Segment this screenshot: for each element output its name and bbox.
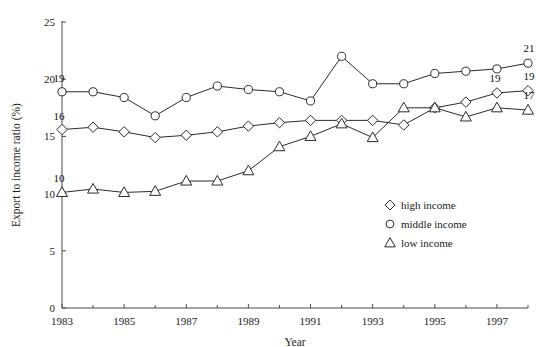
y-tick-label: 15: [44, 130, 56, 142]
x-tick-label: 1985: [113, 315, 136, 327]
axes-layer: 0510152025198319851987198919911993199519…: [44, 16, 528, 327]
circle-marker: [182, 93, 190, 101]
legend-item-middle-income[interactable]: middle income: [386, 218, 467, 230]
end-value-label: 17: [524, 89, 536, 101]
circle-marker: [151, 112, 159, 120]
circle-marker: [338, 52, 346, 60]
series-line: [62, 56, 528, 115]
x-tick-label: 1995: [424, 315, 447, 327]
diamond-marker: [119, 127, 129, 137]
y-tick-label: 0: [50, 302, 56, 314]
start-value-label: 19: [54, 72, 66, 84]
legend-item-high-income[interactable]: high income: [385, 199, 456, 211]
circle-marker: [275, 88, 283, 96]
triangle-marker: [523, 104, 534, 114]
series-layer: [57, 52, 534, 196]
series-low-income: [57, 102, 534, 196]
series-middle-income: [58, 52, 532, 120]
circle-marker: [213, 82, 221, 90]
series-line: [62, 91, 528, 138]
diamond-marker: [150, 132, 160, 142]
diamond-marker: [274, 117, 284, 127]
mid-value-label: 19: [489, 72, 501, 84]
diamond-marker: [399, 120, 409, 130]
legend-label: middle income: [401, 218, 467, 230]
y-tick-label: 25: [44, 16, 56, 28]
diamond-marker: [243, 121, 253, 131]
series-line: [62, 108, 528, 193]
diamond-marker: [181, 130, 191, 140]
diamond-marker: [492, 88, 502, 98]
triangle-marker: [491, 102, 502, 112]
x-tick-label: 1989: [237, 315, 260, 327]
diamond-marker: [461, 97, 471, 107]
circle-marker: [400, 80, 408, 88]
triangle-marker: [88, 183, 99, 193]
start-value-label: 10: [54, 172, 66, 184]
line-chart: 0510152025198319851987198919911993199519…: [0, 0, 536, 347]
circle-marker: [386, 220, 394, 228]
circle-marker: [462, 67, 470, 75]
legend-item-low-income[interactable]: low income: [385, 237, 453, 249]
diamond-marker: [367, 115, 377, 125]
y-axis-title: Export to income ratio (%): [10, 103, 23, 227]
diamond-marker: [212, 127, 222, 137]
diamond-marker: [57, 124, 67, 134]
end-value-label: 21: [524, 42, 535, 54]
diamond-marker: [385, 200, 395, 210]
chart-container: 0510152025198319851987198919911993199519…: [0, 0, 536, 347]
circle-marker: [369, 80, 377, 88]
chart-legend: high incomemiddle incomelow income: [385, 199, 467, 249]
legend-label: low income: [401, 237, 453, 249]
x-tick-label: 1991: [300, 315, 322, 327]
triangle-marker: [243, 165, 254, 175]
end-value-label: 19: [524, 70, 536, 82]
y-tick-label: 10: [44, 188, 56, 200]
circle-marker: [120, 93, 128, 101]
circle-marker: [244, 85, 252, 93]
diamond-marker: [305, 115, 315, 125]
circle-marker: [431, 69, 439, 77]
series-high-income: [57, 85, 533, 142]
triangle-marker: [181, 175, 192, 185]
x-axis-title: Year: [284, 336, 305, 347]
circle-marker: [306, 97, 314, 105]
triangle-marker: [305, 131, 316, 141]
y-tick-label: 5: [50, 245, 56, 257]
diamond-marker: [88, 122, 98, 132]
triangle-marker: [385, 238, 396, 247]
circle-marker: [89, 88, 97, 96]
circle-marker: [524, 59, 532, 67]
x-tick-label: 1983: [51, 315, 74, 327]
start-value-label: 16: [54, 110, 66, 122]
circle-marker: [58, 88, 66, 96]
triangle-marker: [398, 102, 409, 112]
x-tick-label: 1987: [175, 315, 198, 327]
point-labels-layer: 16191921101719: [54, 42, 536, 184]
x-tick-label: 1997: [486, 315, 509, 327]
x-tick-label: 1993: [362, 315, 385, 327]
legend-label: high income: [401, 199, 456, 211]
